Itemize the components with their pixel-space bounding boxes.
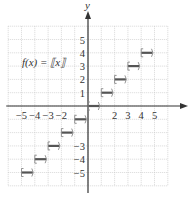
y-tick-label: 2 [80,74,85,85]
x-axis-arrow-icon [180,103,188,109]
x-tick-label: 5 [152,110,157,121]
step-function-graph: −5−4−3−2234554321−3−4−5 f(x) = ⟦x⟧ y [0,0,188,199]
y-axis-arrow-icon [85,11,91,19]
y-tick-label: 4 [80,48,86,59]
x-tick-label: 2 [112,110,117,121]
step-segment [115,75,127,83]
step-segment [88,102,100,110]
step-segment [48,142,60,150]
step-segment [22,169,34,177]
x-tick-label: −2 [56,110,67,121]
axes [6,11,188,193]
step-segment [101,89,113,97]
y-tick-label: 3 [80,61,85,72]
y-tick-label: −5 [74,168,85,179]
x-tick-label: 3 [125,110,130,121]
step-segment [75,115,87,123]
x-tick-label: 4 [139,110,145,121]
x-tick-label: −3 [43,110,54,121]
step-segment [35,155,47,163]
y-tick-label: −4 [74,154,86,165]
step-segment [141,49,153,57]
function-label: f(x) = ⟦x⟧ [22,56,67,69]
x-tick-label: −4 [29,110,41,121]
y-tick-label: −3 [74,141,85,152]
y-tick-label: 5 [80,35,85,46]
x-tick-label: −5 [16,110,27,121]
step-segment [61,129,73,137]
step-segment [128,62,140,70]
y-axis-label: y [84,0,90,11]
y-tick-label: 1 [80,88,85,99]
